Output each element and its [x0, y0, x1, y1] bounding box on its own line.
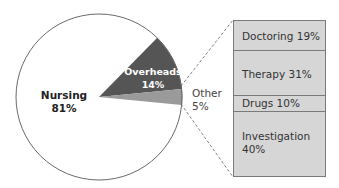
bar-segment-drugs: Drugs 10%: [234, 96, 325, 112]
bar-label-therapy: Therapy 31%: [242, 68, 312, 80]
bar-label-doctoring: Doctoring 19%: [242, 30, 320, 42]
connector-line-top: [181, 20, 233, 86]
bar-label-drugs: Drugs 10%: [242, 97, 300, 109]
bar-label-investigation-value: 40%: [242, 143, 325, 156]
bar-segment-therapy: Therapy 31%: [234, 51, 325, 96]
label-nursing-name: Nursing: [38, 89, 90, 102]
label-overheads: Overheads 14%: [124, 65, 182, 91]
label-nursing-value: 81%: [38, 102, 90, 115]
bar-segment-investigation: Investigation 40%: [234, 112, 325, 176]
label-other: Other 5%: [192, 87, 222, 113]
label-other-value: 5%: [192, 100, 222, 113]
bar-label-investigation-name: Investigation: [242, 130, 325, 143]
label-nursing: Nursing 81%: [38, 89, 90, 115]
bar-segment-doctoring: Doctoring 19%: [234, 21, 325, 51]
breakdown-bar: Doctoring 19% Therapy 31% Drugs 10% Inve…: [233, 20, 326, 177]
label-other-name: Other: [192, 87, 222, 100]
connector-line-bottom: [181, 104, 233, 177]
label-overheads-value: 14%: [124, 78, 182, 91]
label-overheads-name: Overheads: [124, 65, 182, 78]
